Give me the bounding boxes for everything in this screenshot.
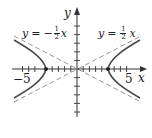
tick-label-pos-5: 5 <box>125 73 133 85</box>
eq-right-var: x <box>129 28 135 39</box>
eq-right-equals: = <box>107 28 116 39</box>
eq-right-den: 2 <box>121 34 125 41</box>
eq-left-den: 2 <box>54 34 58 41</box>
x-axis-label: x <box>138 72 145 84</box>
eq-left-lhs: y <box>22 28 28 39</box>
vertex-right <box>106 67 110 71</box>
y-axis-label: y <box>64 7 71 19</box>
tick-label-neg-5: −5 <box>13 73 31 85</box>
eq-left-equals: = <box>31 28 40 39</box>
asymptote-right-equation: y = 1 2 x <box>98 26 136 41</box>
y-axis-arrow-icon <box>74 7 80 15</box>
eq-left-var: x <box>61 28 67 39</box>
vertex-left <box>44 67 48 71</box>
eq-left-num: 1 <box>54 26 58 33</box>
hyperbola-diagram <box>0 0 152 138</box>
eq-right-lhs: y <box>98 28 104 39</box>
eq-right-fraction: 1 2 <box>120 26 126 41</box>
eq-left-sign: − <box>43 28 52 39</box>
asymptote-left-equation: y = − 1 2 x <box>22 26 67 41</box>
eq-left-fraction: 1 2 <box>54 26 60 41</box>
eq-right-num: 1 <box>121 26 125 33</box>
